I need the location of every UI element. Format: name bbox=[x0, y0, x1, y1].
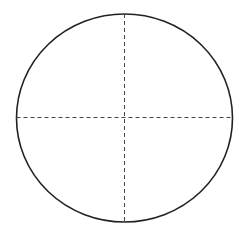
diagram-canvas bbox=[0, 0, 246, 234]
